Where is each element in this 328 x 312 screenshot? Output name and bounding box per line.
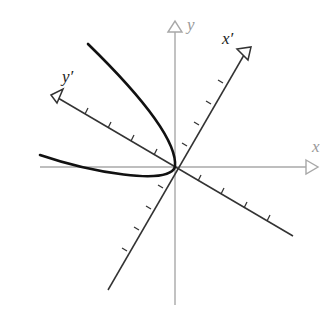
diagram-canvas: y x x′ y′ — [0, 0, 328, 312]
y-axis-label: y — [185, 15, 195, 34]
x-prime-arrow-icon — [237, 47, 251, 60]
parabola-curve — [40, 44, 175, 176]
y-axis-arrow-icon — [168, 21, 182, 32]
y-prime-ticks — [85, 108, 270, 221]
x-prime-label: x′ — [221, 29, 234, 48]
y-prime-label: y′ — [60, 67, 74, 86]
x-axis-label: x — [311, 137, 320, 156]
x-axis-arrow-icon — [306, 160, 318, 174]
y-prime-axis — [51, 89, 293, 236]
y-prime-arrow-icon — [51, 89, 63, 103]
